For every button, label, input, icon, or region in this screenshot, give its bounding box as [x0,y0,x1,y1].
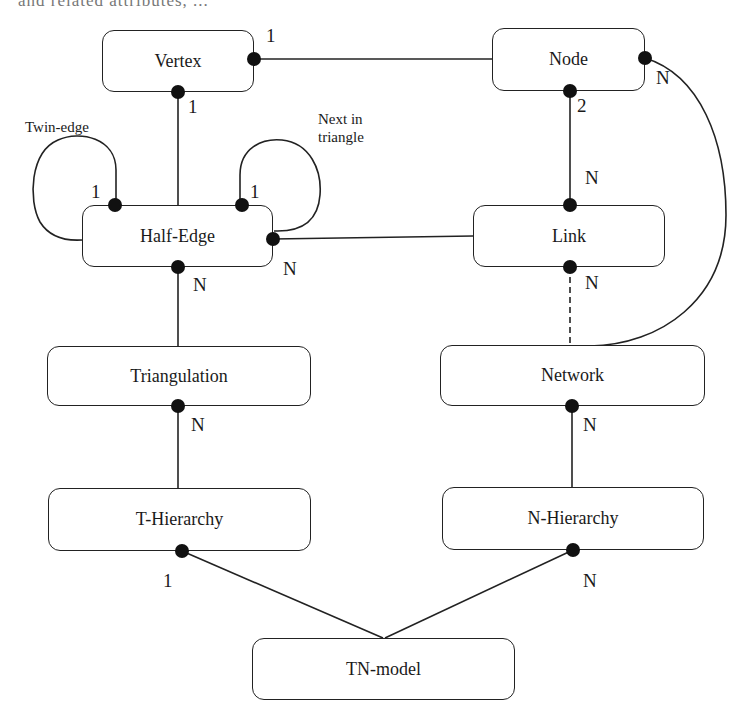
label-next-in-triangle-line2: triangle [318,129,364,146]
entity-label: N-Hierarchy [528,508,619,529]
edge-nhierarchy-tnmodel [385,550,573,638]
label-twin-edge: Twin-edge [25,119,89,136]
card-node-bottom: 2 [577,96,587,115]
entity-vertex[interactable]: Vertex [102,30,254,92]
card-link-top: N [585,168,599,187]
entity-half-edge[interactable]: Half-Edge [82,205,273,267]
entity-label: Half-Edge [140,226,215,247]
entity-label: Triangulation [130,366,227,387]
entity-network[interactable]: Network [440,345,705,406]
card-triangulation-bottom: N [191,415,205,434]
card-next-in-triangle: 1 [250,182,260,201]
edge-thierarchy-tnmodel [182,551,383,638]
card-thierarchy-bottom: 1 [163,571,173,590]
card-node-right: N [656,68,670,87]
entity-label: Network [541,365,604,386]
edge-node-network-curve [590,58,726,346]
entity-tn-model[interactable]: TN-model [252,638,515,700]
entity-link[interactable]: Link [473,205,665,267]
card-twin-edge: 1 [91,182,101,201]
card-nhierarchy-bottom: N [583,571,597,590]
entity-t-hierarchy[interactable]: T-Hierarchy [48,488,311,551]
edge-halfedge-link [273,236,473,239]
card-vertex-right: 1 [266,26,276,45]
entity-node[interactable]: Node [492,28,645,91]
entity-label: Vertex [155,51,202,72]
card-link-bottom: N [585,273,599,292]
entity-triangulation[interactable]: Triangulation [47,346,311,406]
entity-label: Link [552,226,586,247]
entity-label: Node [549,49,588,70]
label-next-in-triangle-line1: Next in [318,111,363,128]
entity-n-hierarchy[interactable]: N-Hierarchy [442,487,704,550]
entity-label: TN-model [346,659,421,680]
card-vertex-bottom: 1 [188,97,198,116]
card-network-bottom: N [583,415,597,434]
card-halfedge-bottom: N [193,275,207,294]
entity-label: T-Hierarchy [136,509,223,530]
card-halfedge-right: N [283,259,297,278]
